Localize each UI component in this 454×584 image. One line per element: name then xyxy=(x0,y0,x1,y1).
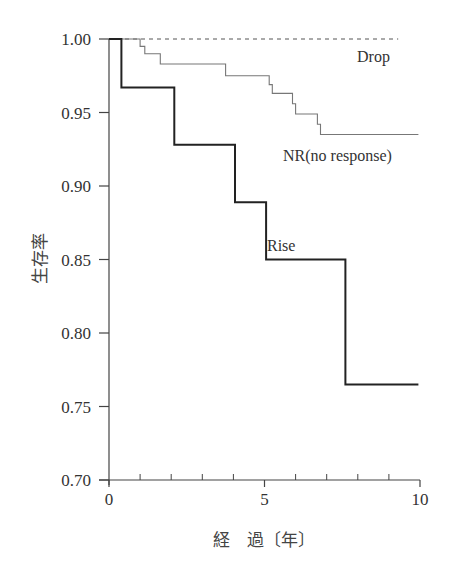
survival-chart: 0.700.750.800.850.900.951.000510 Drop NR… xyxy=(0,0,454,584)
y-axis-title: 生存率 xyxy=(31,233,50,284)
series-rise xyxy=(109,39,418,384)
y-tick-label: 0.70 xyxy=(61,471,91,490)
x-tick-label: 0 xyxy=(105,490,114,509)
y-tick-label: 0.85 xyxy=(61,251,91,270)
series-label-rise: Rise xyxy=(267,237,295,254)
series-label-drop: Drop xyxy=(357,48,390,66)
y-tick-label: 0.80 xyxy=(61,324,91,343)
y-tick-label: 1.00 xyxy=(61,30,91,49)
axes: 0.700.750.800.850.900.951.000510 xyxy=(61,30,428,509)
y-tick-label: 0.90 xyxy=(61,177,91,196)
series-label-nr: NR(no response) xyxy=(283,147,392,165)
y-tick-label: 0.95 xyxy=(61,104,91,123)
x-tick-label: 5 xyxy=(260,490,269,509)
y-tick-label: 0.75 xyxy=(61,398,91,417)
x-axis-title: 経 過〔年〕 xyxy=(213,531,315,550)
x-tick-label: 10 xyxy=(412,490,429,509)
series-group xyxy=(109,39,418,384)
